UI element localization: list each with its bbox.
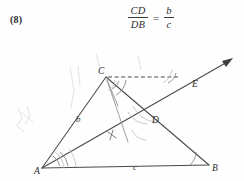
side-label-c: c [133, 162, 137, 172]
geometry-diagram: A B C D E b c [0, 46, 244, 181]
fraction-right: b c [164, 5, 174, 30]
figure-page: (8) CD DB = b c [0, 0, 244, 181]
fraction-left-denominator: DB [129, 19, 148, 30]
fraction-left-bar [128, 17, 148, 18]
vertex-label-b: B [212, 163, 218, 173]
equation-row: (8) CD DB = b c [0, 0, 244, 46]
vertex-label-e: E [191, 79, 198, 89]
construction-line-c2 [107, 80, 118, 106]
vertex-label-a: A [33, 166, 40, 176]
equation-expression: CD DB = b c [128, 5, 174, 30]
vertex-label-d: D [151, 115, 159, 125]
fraction-right-numerator: b [164, 5, 174, 16]
segment-ab [42, 165, 209, 168]
equals-sign: = [153, 12, 159, 24]
geometry-diagram-svg: A B C D E b c [0, 46, 244, 181]
angle-arc-crossing-1 [168, 73, 176, 83]
fraction-left-numerator: CD [128, 5, 147, 16]
ray-arrowhead-icon [222, 58, 233, 67]
side-label-b: b [76, 114, 81, 124]
vertex-label-c: C [98, 66, 105, 76]
angle-arc-d-3 [132, 130, 146, 140]
angle-arc-b [190, 152, 196, 165]
fraction-left: CD DB [128, 5, 148, 30]
fraction-right-denominator: c [165, 19, 174, 30]
fraction-right-bar [164, 17, 174, 18]
item-number: (8) [10, 14, 22, 25]
